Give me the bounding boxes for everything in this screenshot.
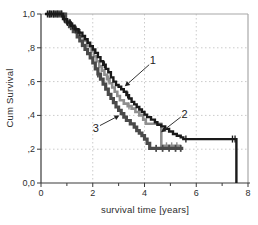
annotation-arrow-line-1 (129, 65, 150, 83)
annotation-label-3: 3 (93, 122, 99, 134)
km-survival-figure: 0,0,2,4,6,81,002468123 Cum Survival surv… (0, 0, 258, 225)
x-tick-label-4: 4 (142, 188, 147, 198)
y-axis-title: Cum Survival (4, 69, 15, 128)
y-tick-label-1,0: 1,0 (22, 9, 35, 19)
y-tick-label-,8: ,8 (27, 43, 35, 53)
y-tick-label-,4: ,4 (27, 110, 35, 120)
y-tick-label-,6: ,6 (27, 77, 35, 87)
annotation-label-1: 1 (150, 54, 156, 66)
x-tick-label-2: 2 (90, 188, 95, 198)
x-tick-label-6: 6 (194, 188, 199, 198)
y-tick-label-,2: ,2 (27, 144, 35, 154)
survival-plot: 0,0,2,4,6,81,002468123 (0, 0, 258, 225)
annotation-arrow-line-2 (165, 117, 181, 129)
x-tick-label-0: 0 (38, 188, 43, 198)
x-tick-label-8: 8 (245, 188, 250, 198)
x-axis-title: survival time [years] (101, 204, 189, 215)
annotation-label-2: 2 (182, 108, 188, 120)
curve-1 (45, 14, 237, 183)
y-tick-label-0,0: 0,0 (22, 178, 35, 188)
annotation-arrow-line-3 (100, 118, 115, 126)
